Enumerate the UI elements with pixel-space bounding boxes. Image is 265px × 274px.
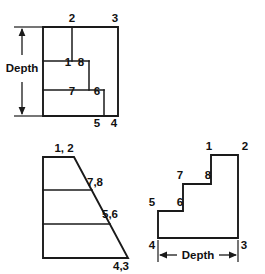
top-view-vertex-label-2: 2: [69, 12, 75, 24]
top-view-arrow-down-icon: [19, 107, 26, 115]
orthographic-views-svg: Depth 2 3 1 8 7 6 5 4 1, 2 7,8 5,6 4,3: [0, 0, 265, 274]
front-view-vertex-label-5: 5: [149, 196, 156, 208]
front-view-arrow-right-icon: [229, 252, 237, 259]
front-view-vertex-label-4: 4: [149, 239, 156, 251]
side-view: 1, 2 7,8 5,6 4,3: [43, 142, 129, 272]
top-view-vertex-label-4: 4: [111, 117, 118, 129]
top-view-vertex-label-1: 1: [65, 56, 72, 68]
front-view-vertex-label-7: 7: [177, 169, 183, 181]
top-view-depth-label: Depth: [6, 62, 39, 74]
top-view-vertex-label-3: 3: [112, 12, 118, 24]
side-view-vertex-label-5-6: 5,6: [102, 208, 118, 220]
top-view-vertex-label-8: 8: [78, 56, 85, 68]
side-view-vertex-label-1-2: 1, 2: [54, 142, 73, 154]
front-view-vertex-label-3: 3: [241, 239, 247, 251]
front-view-vertex-label-8: 8: [205, 169, 212, 181]
top-view-outer-rect: [43, 27, 118, 116]
front-view-arrow-left-icon: [159, 252, 167, 259]
top-view-vertex-label-5: 5: [94, 117, 101, 129]
top-view-arrow-up-icon: [19, 28, 26, 36]
front-view-depth-label: Depth: [182, 249, 215, 261]
side-view-vertex-label-7-8: 7,8: [87, 176, 104, 188]
front-view-outline: [158, 155, 238, 238]
side-view-vertex-label-4-3: 4,3: [113, 260, 129, 272]
front-view: Depth 1 2 7 8 5 6 4 3: [149, 140, 248, 262]
front-view-vertex-label-6: 6: [177, 196, 183, 208]
technical-drawing-figure: Depth 2 3 1 8 7 6 5 4 1, 2 7,8 5,6 4,3: [0, 0, 265, 274]
top-view: Depth 2 3 1 8 7 6 5 4: [6, 12, 119, 129]
front-view-vertex-label-2: 2: [242, 140, 248, 152]
front-view-vertex-label-1: 1: [206, 140, 213, 152]
top-view-vertex-label-6: 6: [94, 85, 100, 97]
top-view-vertex-label-7: 7: [69, 85, 75, 97]
